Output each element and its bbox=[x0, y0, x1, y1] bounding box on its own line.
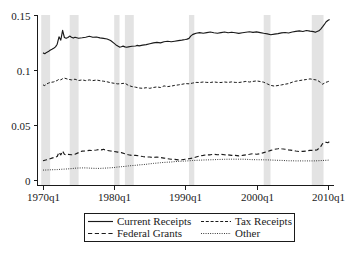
x-tick-label: 1970q1 bbox=[27, 191, 60, 203]
legend-label: Other bbox=[235, 227, 260, 239]
recession-band bbox=[114, 15, 119, 185]
receipts-line-chart: 00.050.10.151970q11980q11990q12000q12010… bbox=[0, 0, 352, 256]
x-tick-label: 1990q1 bbox=[169, 191, 202, 203]
y-tick-label: 0.15 bbox=[11, 10, 31, 22]
legend-label: Federal Grants bbox=[117, 227, 182, 239]
x-tick-label: 2010q1 bbox=[312, 191, 345, 203]
receipts-line-chart-figure: 00.050.10.151970q11980q11990q12000q12010… bbox=[0, 0, 352, 256]
y-tick-label: 0.05 bbox=[11, 120, 31, 132]
x-tick-label: 1980q1 bbox=[98, 191, 131, 203]
legend-label: Current Receipts bbox=[117, 215, 191, 227]
recession-band bbox=[264, 15, 271, 185]
recession-band bbox=[125, 15, 134, 185]
legend-label: Tax Receipts bbox=[235, 215, 292, 227]
recession-band bbox=[70, 15, 79, 185]
recession-band bbox=[312, 15, 324, 185]
y-tick-label: 0.1 bbox=[17, 65, 31, 77]
y-tick-label: 0 bbox=[25, 175, 31, 187]
x-tick-label: 2000q1 bbox=[241, 191, 274, 203]
recession-band bbox=[189, 15, 194, 185]
